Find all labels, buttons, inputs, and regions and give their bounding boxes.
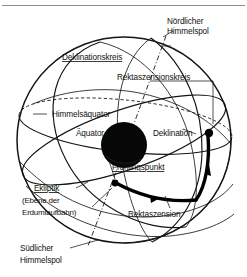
label-south-pole-line2: Himmelspol [20, 256, 62, 265]
label-ecliptic-line1: Ekliptik [34, 184, 60, 193]
label-declination: Deklination [153, 129, 193, 138]
star-point [205, 129, 213, 137]
label-north-pole-line2: Himmelspol [167, 27, 209, 36]
label-declination-circle: Deklinationskreis [62, 53, 122, 62]
label-ecliptic-line2: (Ebene der [22, 196, 60, 205]
label-ecliptic-line3: Erdumlaufbahn) [22, 208, 77, 217]
label-north-pole-line1: Nördlicher [167, 17, 204, 26]
label-south-pole-line1: Südlicher [20, 244, 54, 253]
label-celestial-equator: Himmelsäquator [52, 110, 111, 119]
celestial-sphere-figure: Nördlicher Himmelspol Deklinationskreis … [0, 0, 247, 277]
label-right-ascension-circle: Rektaszensionskreis [117, 73, 190, 82]
label-equator: Äquator [76, 128, 104, 138]
vernal-equinox-point [112, 180, 119, 187]
label-vernal-equinox: Frühlingspunkt [112, 163, 165, 172]
label-right-ascension: Rektaszension [128, 210, 181, 219]
earth-disk [101, 122, 147, 168]
